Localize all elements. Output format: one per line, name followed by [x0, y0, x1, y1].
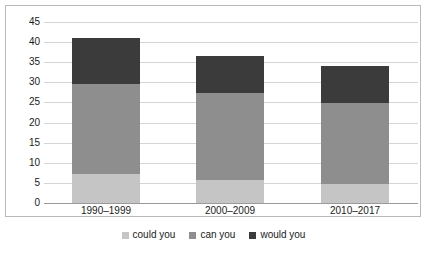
stacked-bar-chart: 45 40 35 30 25 20 15 10 5 0	[0, 0, 427, 257]
chart-legend: could you can you would you	[0, 229, 427, 241]
legend-label-can-you: can you	[200, 229, 235, 241]
bar-stack-0	[72, 38, 140, 203]
y-tick-35: 35	[6, 57, 40, 67]
legend-label-could-you: could you	[133, 229, 176, 241]
y-tick-20: 20	[6, 118, 40, 128]
legend-item-can-you[interactable]: can you	[189, 229, 235, 241]
x-axis-labels: 1990–1999 2000–2009 2010–2017	[44, 205, 418, 221]
legend-label-would-you: would you	[260, 229, 305, 241]
bar-group-2	[321, 22, 389, 203]
legend-swatch-would-you-icon	[249, 232, 256, 239]
bar-segment-could-you-2[interactable]	[321, 184, 389, 203]
y-axis-labels: 45 40 35 30 25 20 15 10 5 0	[0, 22, 40, 203]
legend-item-would-you[interactable]: would you	[249, 229, 305, 241]
bar-group-0	[72, 22, 140, 203]
bar-segment-would-you-2[interactable]	[321, 66, 389, 103]
x-tick-label-1: 2000–2009	[180, 205, 280, 217]
y-tick-45: 45	[6, 17, 40, 27]
legend-swatch-could-you-icon	[122, 232, 129, 239]
bar-segment-can-you-1[interactable]	[196, 93, 264, 180]
y-tick-25: 25	[6, 97, 40, 107]
bar-segment-would-you-0[interactable]	[72, 38, 140, 83]
bar-segment-can-you-0[interactable]	[72, 84, 140, 175]
y-tick-40: 40	[6, 37, 40, 47]
bar-group-1	[196, 22, 264, 203]
y-tick-0: 0	[6, 198, 40, 208]
gridline-0-axis	[44, 203, 418, 204]
bar-segment-would-you-1[interactable]	[196, 56, 264, 93]
y-tick-10: 10	[6, 158, 40, 168]
y-tick-15: 15	[6, 138, 40, 148]
bar-segment-could-you-0[interactable]	[72, 174, 140, 203]
legend-item-could-you[interactable]: could you	[122, 229, 176, 241]
x-tick-label-2: 2010–2017	[305, 205, 405, 217]
bar-stack-2	[321, 66, 389, 203]
y-tick-5: 5	[6, 178, 40, 188]
legend-swatch-can-you-icon	[189, 232, 196, 239]
x-tick-label-0: 1990–1999	[56, 205, 156, 217]
bar-segment-can-you-2[interactable]	[321, 103, 389, 184]
bars-layer	[44, 22, 418, 203]
y-tick-30: 30	[6, 77, 40, 87]
bar-stack-1	[196, 56, 264, 203]
bar-segment-could-you-1[interactable]	[196, 180, 264, 203]
